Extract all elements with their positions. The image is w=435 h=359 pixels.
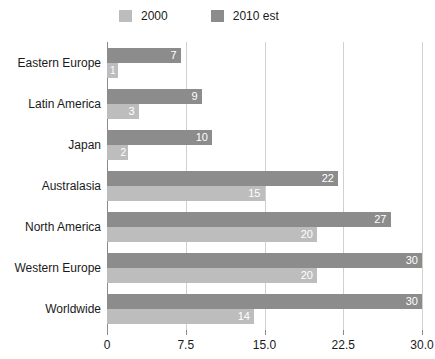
bar-2000[interactable]: 3 xyxy=(107,104,139,119)
x-axis-tick-label: 0 xyxy=(104,338,111,352)
legend-label: 2010 est xyxy=(233,10,279,22)
bar-value-label: 30 xyxy=(406,253,418,268)
bar-value-label: 9 xyxy=(191,89,197,104)
bar-2010-est[interactable]: 27 xyxy=(107,212,391,227)
bar-group: 3020 xyxy=(107,253,422,283)
bar-2010-est[interactable]: 7 xyxy=(107,48,181,63)
x-axis-tick xyxy=(107,330,108,335)
category-label: Latin America xyxy=(28,97,101,111)
bar-2000[interactable]: 20 xyxy=(107,268,317,283)
bar-value-label: 30 xyxy=(406,294,418,309)
bar-chart: 20002010 est Eastern EuropeLatin America… xyxy=(0,0,435,359)
bar-2010-est[interactable]: 30 xyxy=(107,253,422,268)
bar-value-label: 14 xyxy=(238,309,250,324)
bar-group: 2215 xyxy=(107,171,422,201)
bar-value-label: 15 xyxy=(248,186,260,201)
bar-value-label: 7 xyxy=(170,48,176,63)
x-axis-tick-label: 15.0 xyxy=(253,338,276,352)
bar-2010-est[interactable]: 22 xyxy=(107,171,338,186)
bar-2000[interactable]: 2 xyxy=(107,145,128,160)
bar-2000[interactable]: 20 xyxy=(107,227,317,242)
x-axis-tick xyxy=(186,330,187,335)
bar-2010-est[interactable]: 10 xyxy=(107,130,212,145)
legend-label: 2000 xyxy=(141,10,168,22)
bar-2010-est[interactable]: 30 xyxy=(107,294,422,309)
gridline xyxy=(422,42,423,330)
category-label: Worldwide xyxy=(45,302,101,316)
bar-value-label: 1 xyxy=(110,63,116,78)
legend-swatch-icon xyxy=(119,10,132,22)
bar-group: 71 xyxy=(107,48,422,78)
legend-item[interactable]: 2000 xyxy=(119,10,168,22)
x-axis-tick xyxy=(422,330,423,335)
x-axis-tick xyxy=(343,330,344,335)
category-label: Australasia xyxy=(42,179,101,193)
bar-2000[interactable]: 1 xyxy=(107,63,118,78)
bar-2000[interactable]: 15 xyxy=(107,186,265,201)
chart-legend: 20002010 est xyxy=(0,4,435,28)
category-label: Japan xyxy=(68,138,101,152)
bar-2010-est[interactable]: 9 xyxy=(107,89,202,104)
x-axis-tick-label: 7.5 xyxy=(177,338,194,352)
x-axis-tick-label: 30.0 xyxy=(410,338,433,352)
category-label: North America xyxy=(25,220,101,234)
x-axis-tick xyxy=(265,330,266,335)
bar-value-label: 20 xyxy=(301,227,313,242)
bar-2000[interactable]: 14 xyxy=(107,309,254,324)
bar-value-label: 20 xyxy=(301,268,313,283)
x-axis-tick-label: 22.5 xyxy=(332,338,355,352)
bar-group: 93 xyxy=(107,89,422,119)
bar-value-label: 22 xyxy=(322,171,334,186)
bar-group: 3014 xyxy=(107,294,422,324)
bar-group: 2720 xyxy=(107,212,422,242)
bar-value-label: 3 xyxy=(128,104,134,119)
bar-value-label: 27 xyxy=(374,212,386,227)
bar-value-label: 10 xyxy=(196,130,208,145)
bar-group: 102 xyxy=(107,130,422,160)
category-label: Eastern Europe xyxy=(18,56,101,70)
category-axis-labels: Eastern EuropeLatin AmericaJapanAustrala… xyxy=(0,42,101,330)
category-label: Western Europe xyxy=(15,261,102,275)
legend-item[interactable]: 2010 est xyxy=(211,10,279,22)
bar-value-label: 2 xyxy=(120,145,126,160)
legend-swatch-icon xyxy=(211,10,224,22)
plot-area: 07.515.022.530.071931022215272030203014 xyxy=(107,42,422,330)
